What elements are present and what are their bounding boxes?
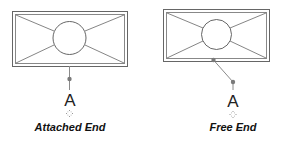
leader-end-grip-dot[interactable] (231, 80, 235, 84)
leader-elbow-grip-dot[interactable] (211, 58, 215, 62)
diagonal-line (167, 41, 203, 58)
diagonal-line (16, 15, 54, 31)
element-circle (53, 22, 86, 55)
move-grip-icon[interactable] (230, 111, 237, 118)
leader-grip-dot[interactable] (67, 77, 71, 81)
diagonal-line (16, 45, 54, 63)
move-grip-icon[interactable] (66, 110, 73, 117)
tag-label-attached[interactable]: A (62, 92, 78, 109)
diagonal-line (85, 45, 124, 63)
element-circle (202, 20, 232, 50)
diagonal-line (85, 15, 124, 31)
tag-label-free[interactable]: A (225, 93, 241, 110)
caption-attached-end: Attached End (20, 121, 120, 133)
tag-leader-line[interactable] (214, 60, 234, 82)
free-end-figure (164, 10, 270, 119)
diagonal-line (230, 41, 266, 58)
diagonal-line (230, 13, 266, 28)
caption-free-end: Free End (183, 121, 281, 133)
diagonal-line (167, 13, 203, 28)
